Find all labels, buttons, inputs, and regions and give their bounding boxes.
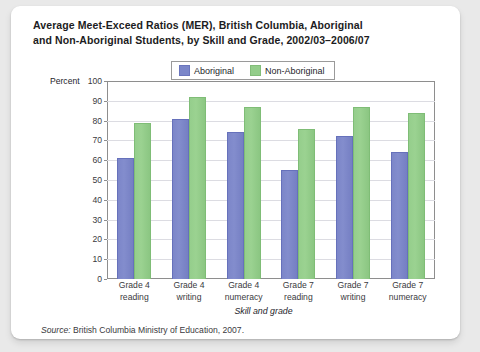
x-axis-tick-label: Grade 4numeracy: [216, 280, 271, 303]
chart-title-line-1: Average Meet-Exceed Ratios (MER), Britis…: [33, 19, 363, 31]
plot-area: 1009080706050403020100: [107, 81, 435, 279]
chart-title-line-2: and Non-Aboriginal Students, by Skill an…: [33, 33, 433, 48]
y-axis-tick-label: 40: [92, 195, 102, 205]
y-axis-tick-label: 10: [92, 254, 102, 264]
y-axis-tick-label: 50: [92, 175, 102, 185]
source-text: British Columbia Ministry of Education, …: [73, 325, 244, 335]
bar-group: [216, 81, 271, 279]
x-axis-tick-label-line: Grade 7: [326, 280, 381, 292]
bar-group: [162, 81, 217, 279]
bar-groups: [107, 81, 435, 279]
page-root: Average Meet-Exceed Ratios (MER), Britis…: [0, 0, 480, 352]
legend-swatch-icon-aboriginal: [179, 65, 190, 76]
y-axis-tick-label: 30: [92, 215, 102, 225]
bar-non-aboriginal: [298, 129, 315, 279]
bar-group: [326, 81, 381, 279]
x-axis-tick-label-line: numeracy: [380, 292, 435, 304]
x-axis-tick-label-line: Grade 4: [107, 280, 162, 292]
x-axis-tick-label: Grade 4writing: [162, 280, 217, 303]
x-axis-tick-label: Grade 7numeracy: [380, 280, 435, 303]
legend-swatch-icon-non-aboriginal: [250, 65, 261, 76]
source-note: Source: British Columbia Ministry of Edu…: [41, 325, 244, 335]
bar-aboriginal: [117, 158, 134, 279]
legend-entry-aboriginal: Aboriginal: [179, 65, 234, 76]
y-axis-tick-label: 0: [97, 274, 102, 284]
y-axis-tick-label: 80: [92, 116, 102, 126]
x-axis-tick-label-line: Grade 7: [271, 280, 326, 292]
y-axis-tick-label: 60: [92, 155, 102, 165]
figure-card: Average Meet-Exceed Ratios (MER), Britis…: [11, 6, 460, 339]
bar-aboriginal: [391, 152, 408, 279]
chart-legend: Aboriginal Non-Aboriginal: [171, 61, 335, 80]
chart-title: Average Meet-Exceed Ratios (MER), Britis…: [33, 18, 433, 47]
x-axis-tick-label: Grade 4reading: [107, 280, 162, 303]
source-prefix: Source:: [41, 325, 71, 335]
bar-aboriginal: [227, 132, 244, 279]
bar-non-aboriginal: [189, 97, 206, 279]
x-axis-tick-label-line: Grade 7: [380, 280, 435, 292]
y-axis-title: Percent: [50, 76, 80, 86]
bar-non-aboriginal: [244, 107, 261, 279]
x-axis-tick-label-line: reading: [107, 292, 162, 304]
x-axis-tick-label-line: writing: [326, 292, 381, 304]
x-axis-tick-labels: Grade 4readingGrade 4writingGrade 4numer…: [107, 280, 435, 303]
bar-non-aboriginal: [408, 113, 425, 279]
x-axis-tick-label-line: numeracy: [216, 292, 271, 304]
x-axis-title-text: Skill and grade: [178, 306, 292, 316]
bar-aboriginal: [281, 170, 298, 279]
bar-aboriginal: [336, 136, 353, 279]
legend-label-aboriginal: Aboriginal: [194, 66, 234, 76]
y-axis-tick-label: 100: [88, 76, 102, 86]
x-axis-tick-label-line: Grade 4: [162, 280, 217, 292]
legend-entry-non-aboriginal: Non-Aboriginal: [250, 65, 325, 76]
legend-label-non-aboriginal: Non-Aboriginal: [265, 66, 325, 76]
bar-non-aboriginal: [353, 107, 370, 279]
y-axis-tick-label: 20: [92, 234, 102, 244]
x-axis-tick-label: Grade 7reading: [271, 280, 326, 303]
x-axis-tick-label-line: Grade 4: [216, 280, 271, 292]
x-axis-title: Skill and grade: [11, 306, 460, 316]
bar-group: [271, 81, 326, 279]
x-axis-tick-label-line: reading: [271, 292, 326, 304]
bar-group: [107, 81, 162, 279]
bar-group: [380, 81, 435, 279]
y-axis-tick-label: 90: [92, 96, 102, 106]
x-axis-tick-label: Grade 7writing: [326, 280, 381, 303]
bar-non-aboriginal: [134, 123, 151, 279]
y-axis-tick-label: 70: [92, 135, 102, 145]
x-axis-tick-label-line: writing: [162, 292, 217, 304]
bar-aboriginal: [172, 119, 189, 279]
